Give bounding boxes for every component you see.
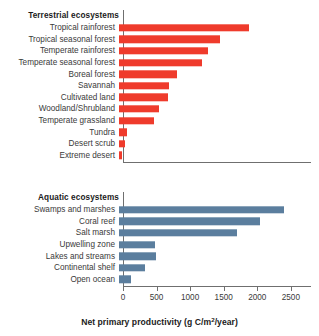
bar (119, 276, 131, 283)
bar-track (119, 45, 319, 57)
bar-category-label: Lakes and streams (0, 252, 119, 261)
bar-category-label: Salt marsh (0, 228, 119, 237)
bar-row: Woodland/Shrubland (0, 103, 319, 115)
bar (119, 241, 155, 248)
bar-category-label: Swamps and marshes (0, 205, 119, 214)
bar-row: Extreme desert (0, 150, 319, 162)
bar-category-label: Savannah (0, 81, 119, 90)
x-axis-title: Net primary productivity (g C/m2/year) (0, 316, 319, 327)
bar (119, 82, 169, 89)
bar (119, 140, 125, 147)
bar-row: Tropical rainforest (0, 22, 319, 34)
bar-row: Upwelling zone (0, 239, 319, 251)
bar-category-label: Desert scrub (0, 139, 119, 148)
x-axis-tick-label: 1500 (215, 292, 233, 303)
bar-row: Tropical seasonal forest (0, 34, 319, 46)
bar (119, 47, 208, 54)
bar-row: Savannah (0, 80, 319, 92)
bar-track (119, 216, 319, 228)
x-axis-tick (224, 287, 225, 291)
bar-category-label: Continental shelf (0, 263, 119, 272)
bar-row: Cultivated land (0, 92, 319, 104)
bar-category-label: Cultivated land (0, 93, 119, 102)
bar-category-label: Tundra (0, 128, 119, 137)
bar-track (119, 126, 319, 138)
x-axis-title-before: Net primary productivity (g C/m (81, 317, 211, 327)
bar-track (119, 227, 319, 239)
chart-figure: Terrestrial ecosystems Tropical rainfore… (0, 0, 319, 336)
bar-track (119, 80, 319, 92)
bar-row: Continental shelf (0, 262, 319, 274)
bar-category-label: Temperate seasonal forest (0, 58, 119, 67)
bar-category-label: Temperate rainforest (0, 46, 119, 55)
x-axis-title-after: /year) (215, 317, 238, 327)
x-axis-tick (123, 287, 124, 291)
bar (119, 128, 127, 135)
x-axis-tick (257, 287, 258, 291)
bar-track (119, 274, 319, 286)
terrestrial-baseline (123, 162, 311, 163)
bar-track (119, 138, 319, 150)
bar (119, 218, 260, 225)
bar (119, 264, 145, 271)
aquatic-heading: Aquatic ecosystems (0, 192, 123, 204)
bar (119, 229, 237, 236)
bar-row: Swamps and marshes (0, 204, 319, 216)
bar-row: Open ocean (0, 274, 319, 286)
x-axis-tick (291, 287, 292, 291)
bar-track (119, 115, 319, 127)
terrestrial-bar-group: Tropical rainforestTropical seasonal for… (0, 22, 319, 161)
bar-track (119, 250, 319, 262)
bar-row: Temperate grassland (0, 115, 319, 127)
x-axis-tick-label: 1000 (181, 292, 199, 303)
bar-row: Lakes and streams (0, 250, 319, 262)
bar-track (119, 204, 319, 216)
bar-track (119, 262, 319, 274)
bar (119, 105, 159, 112)
bar (119, 24, 249, 31)
bar-category-label: Coral reef (0, 217, 119, 226)
bar-row: Boreal forest (0, 68, 319, 80)
bar-row: Tundra (0, 126, 319, 138)
bar (119, 94, 168, 101)
bar-row: Coral reef (0, 216, 319, 228)
bar (119, 59, 202, 66)
bar-track (119, 239, 319, 251)
bar-category-label: Woodland/Shrubland (0, 104, 119, 113)
x-axis-tick-label: 0 (121, 292, 126, 303)
bar-row: Desert scrub (0, 138, 319, 150)
x-axis-tick-label: 2000 (248, 292, 266, 303)
bar (119, 152, 122, 159)
bar-category-label: Upwelling zone (0, 240, 119, 249)
bar (119, 206, 284, 213)
bar-row: Temperate rainforest (0, 45, 319, 57)
bar-track (119, 103, 319, 115)
terrestrial-heading: Terrestrial ecosystems (0, 10, 123, 22)
bar-track (119, 92, 319, 104)
bar (119, 117, 154, 124)
bar-track (119, 68, 319, 80)
bar-track (119, 34, 319, 46)
bar-row: Salt marsh (0, 227, 319, 239)
x-axis-ticks (123, 287, 311, 291)
x-axis-tick-label: 2500 (282, 292, 300, 303)
bar-category-label: Extreme desert (0, 151, 119, 160)
aquatic-bar-group: Swamps and marshesCoral reefSalt marshUp… (0, 204, 319, 285)
aquatic-panel: Aquatic ecosystems Swamps and marshesCor… (0, 192, 319, 294)
terrestrial-panel: Terrestrial ecosystems Tropical rainfore… (0, 10, 319, 190)
bar-track (119, 22, 319, 34)
bar-track (119, 150, 319, 162)
bar-category-label: Tropical rainforest (0, 23, 119, 32)
bar-category-label: Tropical seasonal forest (0, 35, 119, 44)
x-axis-tick-label: 500 (150, 292, 164, 303)
bar (119, 252, 156, 259)
bar-category-label: Open ocean (0, 275, 119, 284)
x-axis-tick-labels: 05001000150020002500 (123, 292, 311, 303)
bar-row: Temperate seasonal forest (0, 57, 319, 69)
bar-track (119, 57, 319, 69)
x-axis-tick (190, 287, 191, 291)
bar (119, 36, 220, 43)
x-axis-tick (157, 287, 158, 291)
bar (119, 70, 177, 77)
bar-category-label: Boreal forest (0, 70, 119, 79)
